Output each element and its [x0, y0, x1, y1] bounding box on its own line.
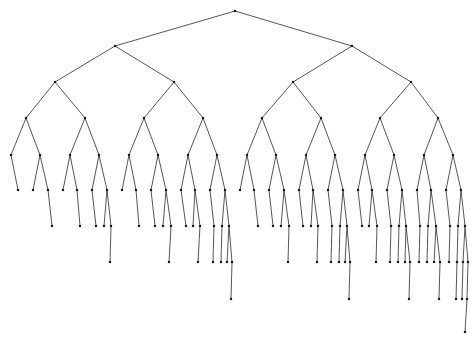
tree-node — [221, 225, 223, 227]
tree-node — [98, 154, 100, 156]
tree-node — [143, 117, 145, 119]
tree-node — [368, 225, 370, 227]
tree-node — [460, 189, 462, 191]
tree-node — [316, 261, 318, 263]
tree-root-node — [234, 10, 236, 12]
tree-node — [344, 261, 346, 263]
tree-node — [109, 261, 111, 263]
tree-node — [331, 225, 333, 227]
tree-node — [170, 225, 172, 227]
tree-node — [462, 261, 464, 263]
tree-node — [10, 154, 12, 156]
tree-node — [455, 298, 457, 300]
tree-node — [393, 154, 395, 156]
tree-node — [213, 225, 215, 227]
tree-node — [445, 189, 447, 191]
tree-node — [138, 225, 140, 227]
tree-node — [128, 154, 130, 156]
tree-node — [310, 225, 312, 227]
tree-node — [348, 298, 350, 300]
tree-node — [404, 261, 406, 263]
tree-node — [338, 261, 340, 263]
tree-node — [379, 117, 381, 119]
tree-node — [114, 45, 116, 47]
tree-node — [342, 189, 344, 191]
tree-node — [25, 117, 27, 119]
tree-node — [246, 154, 248, 156]
tree-node — [330, 261, 332, 263]
tree-node — [357, 189, 359, 191]
tree-node — [168, 261, 170, 263]
tree-node — [91, 189, 93, 191]
tree-node — [426, 261, 428, 263]
tree-node — [334, 154, 336, 156]
tree-node — [464, 225, 466, 227]
tree-node — [298, 189, 300, 191]
tree-node — [261, 117, 263, 119]
tree-node — [106, 189, 108, 191]
tree-node — [410, 81, 412, 83]
tree-node — [226, 261, 228, 263]
tree-node — [371, 189, 373, 191]
tree-node — [452, 154, 454, 156]
tree-node — [84, 117, 86, 119]
tree-node — [76, 189, 78, 191]
tree-node — [457, 225, 459, 227]
tree-node — [180, 189, 182, 191]
tree-node — [154, 225, 156, 227]
tree-node — [397, 261, 399, 263]
tree-node — [157, 154, 159, 156]
tree-node — [467, 261, 469, 263]
tree-node — [408, 298, 410, 300]
tree-node — [401, 189, 403, 191]
tree-node — [433, 261, 435, 263]
tree-node — [466, 298, 468, 300]
tree-node — [416, 189, 418, 191]
tree-node — [376, 225, 378, 227]
tree-node — [17, 189, 19, 191]
tree-node — [216, 154, 218, 156]
tree-node — [435, 225, 437, 227]
tree-node — [165, 189, 167, 191]
tree-node — [375, 261, 377, 263]
tree-node — [69, 154, 71, 156]
tree-node — [351, 45, 353, 47]
tree-node — [230, 298, 232, 300]
tree-node — [456, 261, 458, 263]
tree-node — [253, 189, 255, 191]
tree-diagram-figure — [0, 0, 475, 345]
tree-node — [464, 331, 466, 333]
tree-node — [288, 225, 290, 227]
tree-node — [320, 117, 322, 119]
tree-node — [239, 189, 241, 191]
tree-node — [162, 225, 164, 227]
tree-node — [95, 225, 97, 227]
tree-node — [283, 189, 285, 191]
tree-node — [437, 117, 439, 119]
tree-node — [224, 189, 226, 191]
tree-node — [405, 225, 407, 227]
tree-node — [427, 225, 429, 227]
tree-node — [194, 189, 196, 191]
tree-node — [150, 189, 152, 191]
tree-node — [268, 189, 270, 191]
tree-node — [202, 117, 204, 119]
tree-node — [257, 225, 259, 227]
tree-node — [228, 225, 230, 227]
tree-node — [121, 189, 123, 191]
tree-node — [361, 225, 363, 227]
tree-node — [220, 261, 222, 263]
tree-node — [231, 261, 233, 263]
tree-node — [346, 225, 348, 227]
tree-node — [39, 154, 41, 156]
tree-node — [409, 261, 411, 263]
tree-node — [292, 81, 294, 83]
tree-node — [390, 225, 392, 227]
tree-node — [54, 81, 56, 83]
tree-node — [197, 261, 199, 263]
tree-node — [423, 154, 425, 156]
tree-node — [317, 225, 319, 227]
tree-node — [302, 225, 304, 227]
tree-node — [272, 225, 274, 227]
tree-node — [327, 189, 329, 191]
